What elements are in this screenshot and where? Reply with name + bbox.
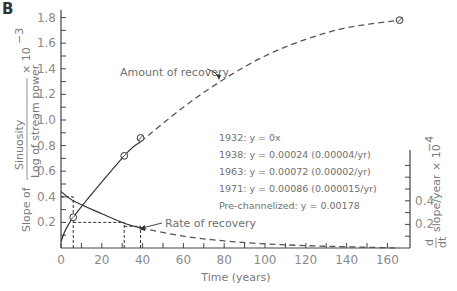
dashed-guides (61, 197, 141, 248)
x-tick-label: 0 (57, 253, 65, 267)
x-tick-label: 120 (294, 253, 317, 267)
amount-curve-dashed (141, 20, 400, 142)
x-tick-label: 60 (176, 253, 191, 267)
equations-block: 1932: y = 0x 1938: y = 0.00024 (0.00004/… (219, 132, 377, 211)
left-multiplier-text: × 10 (20, 47, 33, 74)
x-tick-label: 140 (335, 253, 358, 267)
dt-text: dt (436, 236, 449, 248)
slope-of-text: Slope of (20, 186, 33, 232)
y-left-tick-label: 1.8 (37, 11, 56, 25)
observed-point-marker (70, 214, 77, 221)
sinuosity-text: Sinuosity (13, 119, 26, 170)
y-left-tick-label: 0.4 (37, 190, 56, 204)
x-tick-label: 160 (376, 253, 399, 267)
left-exponent-text: −3 (13, 28, 26, 44)
eq-1971: 1971: y = 0.00086 (0.000015/yr) (219, 183, 377, 194)
x-tick-label: 100 (254, 253, 277, 267)
observed-point-marker (121, 152, 128, 159)
recovery-chart: B 020406080100120140160 0.20.40.60.81.01… (0, 0, 457, 291)
right-text: slope/year × 10 (430, 144, 443, 232)
x-tick-label: 80 (217, 253, 232, 267)
eq-prechannelized: Pre-channelized: y = 0.00178 (219, 200, 360, 211)
x-ticks: 020406080100120140160 (57, 243, 399, 267)
axes (61, 10, 410, 248)
d-text: d (423, 239, 436, 246)
eq-1963: 1963: y = 0.00072 (0.00002/yr) (219, 166, 371, 177)
eq-1938: 1938: y = 0.00024 (0.00004/yr) (219, 149, 371, 160)
y-left-tick-label: 0.2 (37, 215, 56, 229)
rate-label: Rate of recovery (165, 217, 256, 230)
observed-point-marker (137, 135, 144, 142)
right-exponent-text: −4 (423, 136, 436, 152)
log-power-text: Log of stream power (29, 64, 42, 178)
amount-label: Amount of recovery (120, 66, 229, 79)
rate-curve-dashed (141, 228, 400, 248)
y-left-tick-label: 1.6 (37, 36, 56, 50)
panel-letter: B (2, 0, 13, 18)
observed-point-marker (396, 17, 403, 24)
x-axis-title: Time (years) (200, 271, 270, 284)
eq-1932: 1932: y = 0x (219, 132, 281, 143)
x-tick-label: 40 (135, 253, 150, 267)
x-tick-label: 20 (94, 253, 109, 267)
